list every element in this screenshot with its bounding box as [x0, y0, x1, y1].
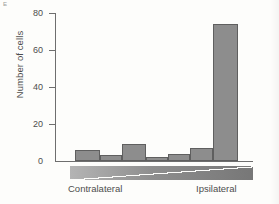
figure-panel: E Number of cells 80 60 40 20 0 Contrala…	[0, 0, 279, 204]
y-tick-label-20: 20	[13, 120, 43, 129]
scan-edge-shading	[270, 0, 279, 204]
x-axis-line	[55, 161, 253, 162]
bar-7	[213, 24, 238, 161]
wedge-stripe	[70, 166, 253, 180]
y-tick-label-80: 80	[13, 9, 43, 18]
panel-letter: E	[3, 1, 7, 8]
bar-4	[146, 157, 168, 161]
bar-5	[168, 154, 190, 161]
y-tick-label-60: 60	[13, 46, 43, 55]
bar-6	[190, 148, 213, 161]
y-tick-label-40: 40	[13, 83, 43, 92]
bar-3	[122, 144, 146, 161]
plot-area	[56, 13, 253, 161]
y-tick-label-0: 0	[13, 157, 43, 166]
bar-1	[75, 150, 100, 161]
laterality-gradient-bar	[70, 166, 253, 180]
x-axis-label-contralateral: Contralateral	[68, 183, 122, 194]
bar-2	[100, 155, 122, 161]
y-axis-label: Number of cells	[14, 5, 25, 125]
x-axis-label-ipsilateral: Ipsilateral	[196, 183, 237, 194]
